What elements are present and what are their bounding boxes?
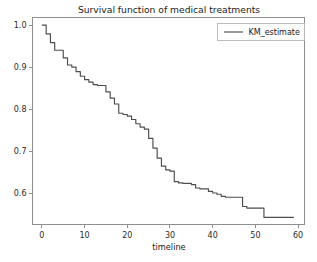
chart-title: Survival function of medical treatments	[78, 4, 260, 15]
x-tick-label: 0	[39, 231, 44, 240]
x-tick-label: 30	[165, 231, 175, 240]
y-tick-label: 0.8	[14, 105, 27, 114]
x-tick-label: 20	[122, 231, 132, 240]
x-tick-label: 40	[208, 231, 218, 240]
y-tick-label: 1.0	[14, 21, 27, 30]
x-tick-label: 50	[250, 231, 260, 240]
chart-legend: KM_estimate	[218, 24, 305, 41]
survival-function-chart: Survival function of medical treatments …	[0, 0, 317, 262]
x-tick-label: 10	[80, 231, 90, 240]
x-axis-label: timeline	[152, 242, 185, 252]
x-tick-label: 60	[293, 231, 303, 240]
y-tick-label: 0.6	[14, 189, 27, 198]
y-tick-label: 0.9	[14, 63, 27, 72]
y-tick-label: 0.7	[14, 147, 27, 156]
legend-entry-label: KM_estimate	[249, 28, 300, 37]
matplotlib-figure: Survival function of medical treatments …	[0, 0, 317, 262]
